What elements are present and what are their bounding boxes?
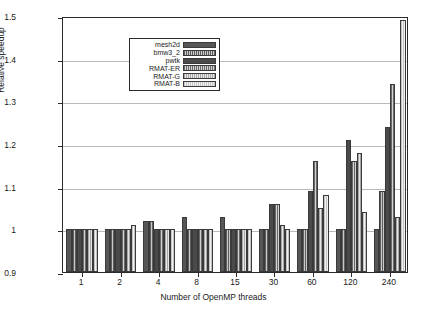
legend-item-mesh2d: mesh2d [132,41,216,48]
legend-item-pwtk: pwtk [132,57,216,64]
legend-swatch-icon [183,50,216,56]
y-tick [58,18,63,19]
legend-label: mesh2d [132,41,183,48]
legend-label: pwtk [132,57,183,64]
y-tick-label: 1.4 [0,56,16,65]
bar-rmat-b [362,212,367,272]
legend-label: bmw3_2 [132,49,183,56]
bar-group [336,18,368,272]
relative-speedup-bar-chart: Relative speedup mesh2d bmw3_2 pwtk RMAT… [0,0,427,313]
y-tick [58,61,63,62]
legend-item-rmat-b: RMAT-B [132,80,216,87]
bar-rmat-b [323,195,328,272]
y-tick-label: 1.2 [0,141,16,150]
y-tick-label: 0.9 [0,269,16,278]
x-axis-title: Number of OpenMP threads [0,292,427,302]
y-tick-label: 1 [0,226,16,235]
bar-group [259,18,291,272]
legend-swatch-icon [183,42,216,48]
bar-rmat-b [131,225,136,272]
x-tick-label: 4 [138,277,178,287]
bar-group [374,18,406,272]
x-tick-label: 2 [100,277,140,287]
x-tick-label: 15 [215,277,255,287]
y-tick [58,103,63,104]
legend: mesh2d bmw3_2 pwtk RMAT-ER RMAT-G RMAT-B [129,38,220,91]
bar-group [66,18,98,272]
bar-rmat-b [208,229,213,272]
x-tick-label: 240 [369,277,409,287]
legend-item-rmat-g: RMAT-G [132,73,216,80]
y-tick [58,274,63,275]
y-tick-label: 1.3 [0,98,16,107]
bar-group [297,18,329,272]
y-tick [58,146,63,147]
x-tick-label: 8 [177,277,217,287]
x-tick-label: 30 [253,277,293,287]
bar-rmat-b [285,229,290,272]
y-tick [58,231,63,232]
x-tick-label: 60 [292,277,332,287]
legend-swatch-icon [183,58,216,64]
legend-swatch-icon [183,81,216,87]
legend-label: RMAT-G [132,73,183,80]
bar-rmat-b [93,229,98,272]
y-tick-label: 1.5 [0,13,16,22]
bar-group [220,18,252,272]
legend-swatch-icon [183,65,216,71]
legend-item-rmat-er: RMAT-ER [132,65,216,72]
bar-rmat-b [247,229,252,272]
legend-label: RMAT-B [132,80,183,87]
x-tick-label: 1 [61,277,101,287]
y-tick [58,189,63,190]
x-tick-label: 120 [330,277,370,287]
legend-item-bmw3_2: bmw3_2 [132,49,216,56]
legend-label: RMAT-ER [132,65,183,72]
bar-rmat-b [170,229,175,272]
bar-rmat-b [400,20,405,272]
y-tick-label: 1.1 [0,184,16,193]
plot-area: mesh2d bmw3_2 pwtk RMAT-ER RMAT-G RMAT-B [62,17,408,273]
legend-swatch-icon [183,73,216,79]
